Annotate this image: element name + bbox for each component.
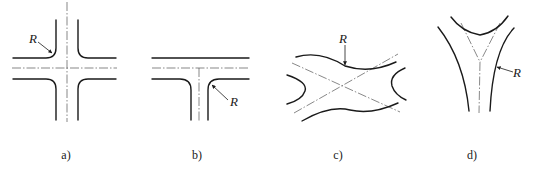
curb-bottom bbox=[302, 103, 398, 121]
radius-leader-arrow bbox=[497, 67, 513, 72]
curb-right bbox=[392, 68, 406, 100]
centerline-right-branch bbox=[480, 23, 500, 62]
radius-label: R bbox=[229, 94, 238, 109]
panel-b-t-intersection: R bbox=[152, 58, 249, 122]
radius-label: R bbox=[338, 31, 347, 46]
intersection-diagram: R R R R bbox=[0, 0, 534, 178]
curb-left bbox=[287, 75, 305, 104]
panel-d-y-intersection: R bbox=[438, 16, 521, 113]
curb-bottom-right bbox=[78, 79, 116, 120]
caption-b: b) bbox=[192, 148, 202, 163]
panel-c-oblique-intersection: R bbox=[287, 31, 406, 121]
radius-label: R bbox=[512, 65, 521, 80]
curb-inner-top bbox=[451, 16, 508, 35]
curb-top-right bbox=[78, 20, 116, 58]
curb-top bbox=[296, 55, 396, 69]
radius-label: R bbox=[28, 31, 37, 46]
curb-outer-left bbox=[438, 27, 469, 111]
radius-leader-arrow bbox=[212, 85, 228, 100]
caption-d: d) bbox=[467, 148, 477, 163]
curb-bottom-left bbox=[152, 79, 191, 120]
curb-bottom-left bbox=[13, 79, 56, 120]
curb-bottom-right bbox=[208, 79, 249, 120]
caption-c: c) bbox=[333, 148, 342, 163]
curb-outer-right bbox=[490, 28, 514, 111]
centerline-stem bbox=[479, 62, 480, 113]
radius-leader-arrow bbox=[38, 42, 52, 53]
panel-a-cross-intersection: R bbox=[12, 2, 117, 122]
caption-a: a) bbox=[61, 148, 70, 163]
